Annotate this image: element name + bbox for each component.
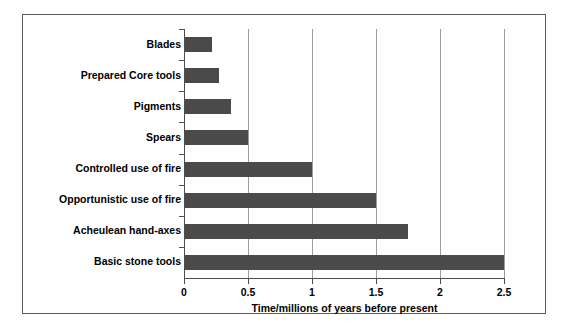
- category-label: Opportunistic use of fire: [29, 194, 181, 205]
- bar: [184, 162, 312, 177]
- bar-row: [184, 216, 408, 247]
- category-label: Pigments: [29, 101, 181, 112]
- chart-frame: BladesPrepared Core toolsPigmentsSpearsC…: [22, 14, 546, 314]
- value-tick-label: 2.5: [497, 286, 512, 298]
- value-tick: [376, 279, 377, 284]
- bar: [184, 68, 219, 83]
- category-tick: [179, 154, 184, 155]
- category-axis-labels: BladesPrepared Core toolsPigmentsSpearsC…: [23, 29, 181, 278]
- category-label: Blades: [29, 39, 181, 50]
- bar: [184, 37, 212, 52]
- bar-row: [184, 185, 376, 216]
- category-tick: [179, 122, 184, 123]
- x-axis-title: Time/millions of years before present: [184, 302, 505, 314]
- value-tick-label: 1: [309, 286, 315, 298]
- gridline: [504, 29, 505, 278]
- bar: [184, 224, 408, 239]
- bar-row: [184, 122, 248, 153]
- category-axis-line: [184, 29, 185, 279]
- bar: [184, 193, 376, 208]
- category-label: Spears: [29, 132, 181, 143]
- gridline: [440, 29, 441, 278]
- value-axis-line: [184, 278, 505, 279]
- bar-row: [184, 247, 504, 278]
- value-tick: [184, 279, 185, 284]
- category-label: Controlled use of fire: [29, 163, 181, 174]
- bar-row: [184, 29, 212, 60]
- bar: [184, 255, 504, 270]
- category-label: Basic stone tools: [29, 256, 181, 267]
- value-tick-label: 2: [437, 286, 443, 298]
- bar-row: [184, 60, 219, 91]
- value-tick: [248, 279, 249, 284]
- category-label: Prepared Core tools: [29, 70, 181, 81]
- category-tick: [179, 247, 184, 248]
- value-tick-label: 0.5: [241, 286, 256, 298]
- value-tick: [440, 279, 441, 284]
- category-tick: [179, 29, 184, 30]
- bar: [184, 99, 231, 114]
- category-label: Acheulean hand-axes: [29, 225, 181, 236]
- value-tick: [504, 279, 505, 284]
- value-tick-label: 1.5: [369, 286, 384, 298]
- bar-row: [184, 154, 312, 185]
- category-tick: [179, 185, 184, 186]
- category-tick: [179, 216, 184, 217]
- chart-figure: BladesPrepared Core toolsPigmentsSpearsC…: [0, 0, 568, 329]
- category-tick: [179, 91, 184, 92]
- bar: [184, 130, 248, 145]
- value-tick: [312, 279, 313, 284]
- category-tick: [179, 60, 184, 61]
- bar-row: [184, 91, 231, 122]
- value-tick-label: 0: [181, 286, 187, 298]
- plot-area: [184, 29, 504, 278]
